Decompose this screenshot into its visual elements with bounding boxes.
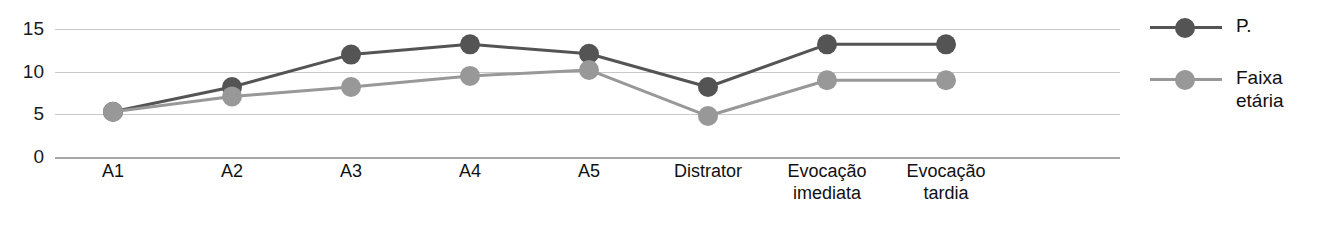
x-axis-tick-label: Distrator xyxy=(643,160,773,182)
data-point-marker xyxy=(817,70,837,90)
data-point-marker xyxy=(698,106,718,126)
legend-dot-icon xyxy=(1175,70,1195,90)
legend-dot-icon xyxy=(1175,18,1195,38)
data-point-marker xyxy=(460,66,480,86)
x-axis-tick-label: Evocação tardia xyxy=(881,160,1011,204)
series-faixa-etaria xyxy=(103,60,956,126)
x-axis-tick-label: A5 xyxy=(524,160,654,182)
data-point-marker xyxy=(103,102,123,122)
y-axis-tick-label: 15 xyxy=(0,19,44,38)
data-point-marker xyxy=(460,34,480,54)
legend-marker-icon xyxy=(1150,66,1222,92)
data-point-marker xyxy=(222,86,242,106)
plot-area xyxy=(55,0,1120,170)
x-axis-tick-label: Evocação imediata xyxy=(762,160,892,204)
data-point-marker xyxy=(341,45,361,65)
data-point-marker xyxy=(936,70,956,90)
y-axis-tick-label: 10 xyxy=(0,62,44,81)
line-chart: 151050 A1A2A3A4A5DistratorEvocação imedi… xyxy=(0,0,1319,240)
data-point-marker xyxy=(341,77,361,97)
legend-item[interactable]: Faixa etária xyxy=(1150,66,1284,112)
data-point-marker xyxy=(579,60,599,80)
data-point-marker xyxy=(936,34,956,54)
chart-legend: P.Faixa etária xyxy=(1150,14,1319,144)
x-axis-tick-label: A2 xyxy=(167,160,297,182)
legend-label: Faixa etária xyxy=(1236,66,1284,112)
data-point-marker xyxy=(817,34,837,54)
y-axis-tick-label: 5 xyxy=(0,104,44,123)
legend-marker-icon xyxy=(1150,14,1222,40)
y-axis: 151050 xyxy=(0,0,44,240)
x-axis-tick-label: A4 xyxy=(405,160,535,182)
data-point-marker xyxy=(698,77,718,97)
y-axis-tick-label: 0 xyxy=(0,147,44,166)
legend-item[interactable]: P. xyxy=(1150,14,1252,40)
x-axis-tick-label: A1 xyxy=(48,160,178,182)
x-axis: A1A2A3A4A5DistratorEvocação imediataEvoc… xyxy=(55,160,1120,220)
x-axis-tick-label: A3 xyxy=(286,160,416,182)
legend-label: P. xyxy=(1236,14,1252,37)
series-layer xyxy=(55,0,1120,170)
